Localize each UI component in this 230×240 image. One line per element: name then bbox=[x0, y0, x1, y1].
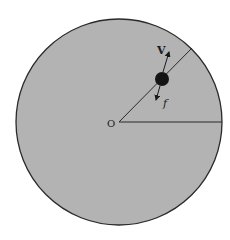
velocity-label: V bbox=[156, 44, 166, 57]
diagram-canvas: V f O bbox=[0, 0, 230, 240]
ball bbox=[155, 72, 169, 86]
center-label: O bbox=[107, 118, 115, 129]
